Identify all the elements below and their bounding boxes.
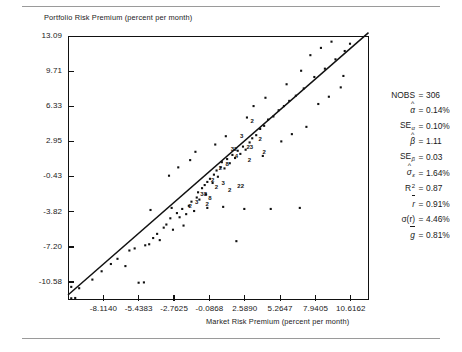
scatter-point [330, 41, 332, 43]
scatter-point [134, 247, 136, 249]
scatter-point [201, 187, 203, 189]
stat-label: β^ [410, 136, 417, 146]
overplot-count-label: 2 [262, 149, 265, 155]
x-tick-mark [173, 295, 174, 301]
scatter-point [328, 96, 330, 98]
stat-row: r=0.91% [371, 193, 462, 209]
scatter-point [176, 212, 178, 214]
scatter-point [324, 68, 326, 70]
scatter-point [278, 109, 280, 111]
scatter-point [70, 286, 72, 288]
scatter-point [251, 137, 253, 139]
scatter-point [159, 239, 161, 241]
scatter-point [226, 158, 228, 160]
stat-value: 1.11 [425, 136, 462, 146]
x-tick-mark [280, 295, 281, 301]
scatter-point [110, 263, 112, 265]
y-tick-label: -7.20 [18, 242, 62, 251]
scatter-point [286, 83, 288, 85]
scatter-point [156, 233, 158, 235]
stat-equals-sign: = [417, 214, 425, 224]
overplot-count-label: 2 [251, 118, 254, 124]
scatter-point [295, 95, 297, 97]
x-tick-label: 10.6162 [323, 304, 379, 313]
scatter-point [300, 70, 302, 72]
scatter-point [152, 237, 154, 239]
stat-subscript: α [411, 125, 415, 131]
stat-row: g=0.81% [371, 224, 462, 240]
scatter-point [317, 103, 319, 105]
scatter-point [259, 128, 261, 130]
y-tick-mark [68, 176, 74, 177]
stat-row: α^=0.14% [371, 100, 462, 116]
overplot-count-label: 23 [247, 144, 254, 150]
stat-equals-sign: = [417, 230, 425, 240]
overplot-count-label: 22 [237, 183, 244, 189]
scatter-point [169, 217, 171, 219]
stat-label: R2 [405, 183, 417, 193]
y-tick-label: -0.43 [18, 171, 62, 180]
overplot-count-label: 3 [221, 180, 224, 186]
scatter-point [253, 105, 255, 107]
overbar-accent [410, 226, 415, 227]
scatter-point [246, 116, 248, 118]
scatter-point [280, 140, 282, 142]
plot-axis-left [68, 36, 69, 300]
scatter-point [270, 208, 272, 210]
plot-axis-top [68, 36, 369, 37]
scatter-point [320, 47, 322, 49]
stat-row: σ^ε=1.64% [371, 162, 462, 178]
scatter-point [264, 97, 266, 99]
regression-statistics-panel: NOBS=306α^=0.14%SEα=0.10%β^=1.11SEβ=0.03… [371, 84, 462, 240]
y-tick-label: 2.95 [18, 136, 62, 145]
stat-row: σ(r)=4.46% [371, 209, 462, 225]
scatter-point [272, 115, 274, 117]
overplot-count-label: 32 [231, 146, 238, 152]
x-tick-mark [244, 295, 245, 301]
x-tick-mark [350, 295, 351, 301]
scatter-point [128, 249, 130, 251]
scatter-point [177, 166, 179, 168]
scatter-point [340, 86, 342, 88]
scatter-point [344, 50, 346, 52]
scatter-point [242, 146, 244, 148]
scatter-point [214, 143, 216, 145]
y-tick-label: -3.82 [18, 207, 62, 216]
y-tick-label: 6.33 [18, 101, 62, 110]
stat-value: 1.64% [425, 168, 462, 178]
scatter-point [138, 282, 140, 284]
scatter-point [299, 207, 301, 209]
stat-row: NOBS=306 [371, 84, 462, 100]
regression-fit-line [68, 33, 369, 295]
overplot-count-label: 3 [195, 199, 198, 205]
stat-value: 0.03 [425, 152, 462, 162]
x-tick-mark [315, 295, 316, 301]
scatter-point [206, 181, 208, 183]
scatter-point [334, 58, 336, 60]
overplot-count-label: 2 [215, 184, 218, 190]
y-tick-mark [68, 141, 74, 142]
scatter-point [213, 174, 215, 176]
scatter-point [217, 176, 219, 178]
scatter-point [101, 270, 103, 272]
overplot-count-label: 2 [228, 187, 231, 193]
scatter-point [189, 159, 191, 161]
y-tick-mark [68, 71, 74, 72]
scatter-point [222, 206, 224, 208]
hat-accent: ^ [410, 131, 415, 138]
scatter-point [193, 210, 195, 212]
overplot-count-label: 2 [206, 201, 209, 207]
scatter-point [349, 43, 351, 45]
x-tick-mark [103, 295, 104, 301]
stat-equals-sign: = [417, 168, 425, 178]
stat-label: g [410, 230, 417, 240]
scatter-point [342, 75, 344, 77]
scatter-point [216, 169, 218, 171]
stat-equals-sign: = [417, 121, 425, 131]
scatter-point [263, 125, 265, 127]
overplot-count-label: 3 [240, 133, 243, 139]
hat-accent: ^ [410, 100, 415, 107]
y-tick-mark [68, 211, 74, 212]
stat-superscript: 2 [411, 183, 415, 189]
scatter-point [181, 208, 183, 210]
